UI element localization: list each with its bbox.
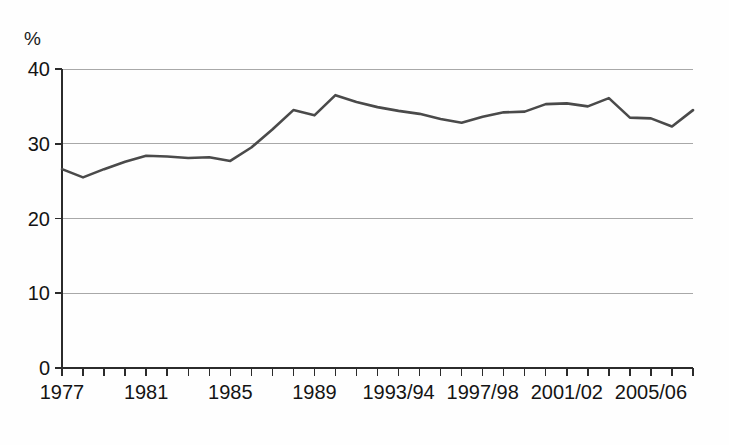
- data-series-line: [62, 95, 693, 177]
- x-axis-tick-marks: [62, 368, 693, 376]
- x-tick-label: 1989: [292, 382, 337, 402]
- x-tick-label: 1985: [208, 382, 253, 402]
- y-tick-label: 0: [6, 358, 50, 378]
- y-tick-label: 40: [6, 59, 50, 79]
- x-tick-label: 2001/02: [531, 382, 603, 402]
- y-tick-label: 30: [6, 134, 50, 154]
- x-tick-label: 1981: [124, 382, 169, 402]
- y-axis-tick-marks: [55, 69, 62, 368]
- x-tick-label: 1997/98: [447, 382, 519, 402]
- line-chart: % 010203040 19771981198519891993/941997/…: [0, 0, 729, 445]
- y-tick-label: 20: [6, 209, 50, 229]
- chart-plot-area: [0, 0, 729, 445]
- x-tick-label: 2005/06: [615, 382, 687, 402]
- y-tick-label: 10: [6, 283, 50, 303]
- x-tick-label: 1993/94: [362, 382, 434, 402]
- x-tick-label: 1977: [40, 382, 85, 402]
